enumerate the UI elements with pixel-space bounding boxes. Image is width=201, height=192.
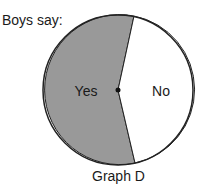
- label-yes: Yes: [75, 83, 98, 99]
- chart-caption: Graph D: [0, 168, 201, 184]
- center-dot: [116, 88, 121, 93]
- label-no: No: [152, 83, 170, 99]
- pie-chart: Yes No: [0, 0, 201, 192]
